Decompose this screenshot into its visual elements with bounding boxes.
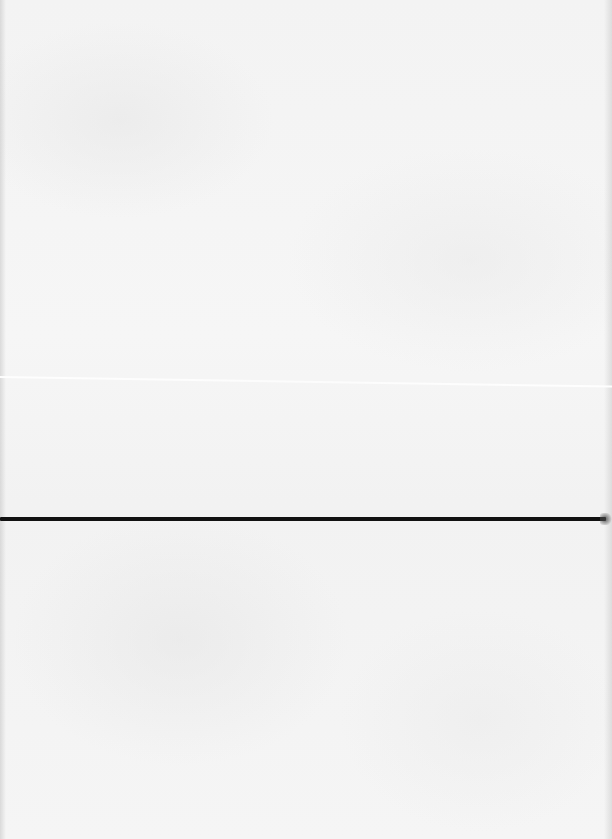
horizontal-rule xyxy=(0,517,606,521)
ink-smudge xyxy=(600,513,612,525)
page-left-edge xyxy=(0,0,6,839)
scanned-page xyxy=(0,0,612,839)
paper-crease xyxy=(0,376,612,388)
page-right-edge xyxy=(604,0,612,839)
